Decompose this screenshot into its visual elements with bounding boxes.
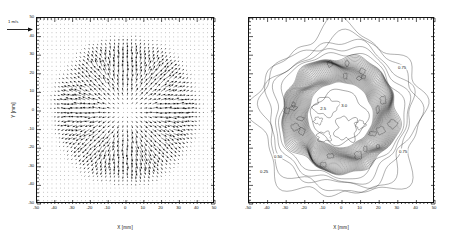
velocity-x-tick: 10 — [141, 206, 145, 210]
contour-x-tick: 40 — [413, 206, 417, 210]
velocity-y-tick: 0 — [22, 108, 34, 112]
contour-map-panel: 2.53.00.750.500.250.75 -50-40-30-20-1001… — [226, 0, 452, 240]
contour-x-tick: -50 — [245, 206, 251, 210]
velocity-x-tick: 50 — [212, 206, 216, 210]
contour-x-tick: 10 — [357, 206, 361, 210]
contour-x-tick: -30 — [282, 206, 288, 210]
velocity-x-tick: 0 — [124, 206, 126, 210]
velocity-axis-ticks — [37, 18, 215, 204]
velocity-y-tick: 40 — [22, 33, 34, 37]
contour-x-tick: 50 — [432, 206, 436, 210]
velocity-vector-field-panel: 1 m/s -50-40-30-20-1001020304050 5040302… — [0, 0, 226, 240]
contour-x-tick: -10 — [320, 206, 326, 210]
contour-x-tick: 0 — [340, 206, 342, 210]
velocity-x-tick: -20 — [87, 206, 93, 210]
velocity-y-tick: -20 — [22, 145, 34, 149]
velocity-y-tick: 30 — [22, 52, 34, 56]
velocity-x-tick: -40 — [51, 206, 57, 210]
velocity-x-tick: 40 — [194, 206, 198, 210]
velocity-y-tick: 20 — [22, 71, 34, 75]
velocity-y-axis-title: Y [mm] — [12, 102, 17, 118]
contour-x-tick: 20 — [376, 206, 380, 210]
velocity-y-tick: -10 — [22, 126, 34, 130]
velocity-y-tick: 50 — [22, 15, 34, 19]
scale-arrow-label: 1 m/s — [8, 20, 18, 25]
velocity-x-tick: 20 — [158, 206, 162, 210]
velocity-y-tick: -30 — [22, 164, 34, 168]
contour-x-tick: -20 — [301, 206, 307, 210]
contour-x-tick: 30 — [395, 206, 399, 210]
contour-axis-ticks — [249, 18, 435, 204]
velocity-y-tick: -40 — [22, 182, 34, 186]
velocity-x-tick: -10 — [104, 206, 110, 210]
velocity-x-tick: 30 — [176, 206, 180, 210]
velocity-x-axis-title: X [mm] — [117, 226, 133, 231]
contour-x-axis-title: X [mm] — [333, 226, 349, 231]
velocity-y-tick: -50 — [22, 201, 34, 205]
contour-plot-frame: 2.53.00.750.500.250.75 — [248, 17, 434, 203]
contour-x-tick: -40 — [264, 206, 270, 210]
velocity-x-tick: -50 — [33, 206, 39, 210]
figure-root: 1 m/s -50-40-30-20-1001020304050 5040302… — [0, 0, 452, 240]
velocity-x-tick: -30 — [69, 206, 75, 210]
velocity-y-tick: 10 — [22, 89, 34, 93]
velocity-plot-frame — [36, 17, 214, 203]
